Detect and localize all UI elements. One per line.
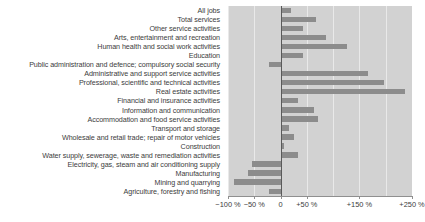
category-label: Transport and storage [0, 124, 224, 133]
bar-row [228, 15, 412, 24]
bar-row [228, 133, 412, 142]
category-label: Manufacturing [0, 169, 224, 178]
bar [281, 152, 298, 157]
bar [281, 107, 314, 112]
bar-row [228, 124, 412, 133]
category-label: Information and communication [0, 106, 224, 115]
category-label: Education [0, 51, 224, 60]
category-label: Accommodation and food service activitie… [0, 115, 224, 124]
x-axis-tick-label: +250 % [399, 200, 424, 209]
x-axis-tick-label: −50 % [244, 200, 265, 209]
category-label: Real estate activities [0, 87, 224, 96]
bar [281, 53, 303, 58]
bar [281, 8, 292, 13]
bar-row [228, 96, 412, 105]
category-label: Human health and social work activities [0, 42, 224, 51]
bar [281, 98, 299, 103]
bar [252, 161, 281, 166]
bar-row [228, 42, 412, 51]
category-label: Agriculture, forestry and fishing [0, 187, 224, 196]
bar-row [228, 33, 412, 42]
category-label: Professional, scientific and technical a… [0, 78, 224, 87]
bar [269, 62, 281, 67]
category-label: Water supply, sewerage, waste and remedi… [0, 151, 224, 160]
x-axis-tick-mark [228, 196, 229, 199]
x-axis-tick-label: +50 % [296, 200, 317, 209]
bar [234, 179, 280, 184]
x-axis-tick-label: 0 [279, 200, 283, 209]
bar [281, 17, 316, 22]
bar-row [228, 69, 412, 78]
bar-row [228, 178, 412, 187]
x-axis-tick-mark [412, 196, 413, 199]
bar-row [228, 160, 412, 169]
bar [281, 44, 348, 49]
category-label: Arts, entertainment and recreation [0, 33, 224, 42]
x-axis-tick-mark [281, 196, 282, 199]
category-label-column: All jobsTotal servicesOther service acti… [0, 6, 224, 196]
x-axis-tick-label: −100 % [215, 200, 240, 209]
bar [269, 189, 281, 194]
bar-row [228, 24, 412, 33]
bar [281, 71, 369, 76]
category-label: Wholesale and retail trade; repair of mo… [0, 133, 224, 142]
bar [281, 89, 406, 94]
x-axis-tick-mark [307, 196, 308, 199]
plot-area [228, 6, 412, 196]
bar-row [228, 106, 412, 115]
bar-row [228, 115, 412, 124]
bar-row [228, 78, 412, 87]
bar [281, 26, 304, 31]
bar [281, 80, 384, 85]
category-label: Public administration and defence; compu… [0, 60, 224, 69]
bar-row [228, 151, 412, 160]
bar-row [228, 169, 412, 178]
x-axis-tick-mark [254, 196, 255, 199]
category-label: Administrative and support service activ… [0, 69, 224, 78]
bar-row [228, 87, 412, 96]
category-label: Other service activities [0, 24, 224, 33]
x-axis-line [228, 196, 412, 197]
bar-row [228, 6, 412, 15]
bar [248, 170, 281, 175]
zero-line [281, 6, 282, 196]
category-label: Construction [0, 142, 224, 151]
bar [281, 125, 289, 130]
x-axis-tick-mark [359, 196, 360, 199]
bar-row [228, 60, 412, 69]
bar-row [228, 187, 412, 196]
category-label: Electricity, gas, steam and air conditio… [0, 160, 224, 169]
category-label: All jobs [0, 6, 224, 15]
x-axis-tick-label: +150 % [347, 200, 372, 209]
category-label: Financial and insurance activities [0, 96, 224, 105]
bar-row [228, 142, 412, 151]
bar [281, 116, 319, 121]
bar [281, 134, 295, 139]
bar [281, 35, 326, 40]
category-label: Mining and quarrying [0, 178, 224, 187]
category-label: Total services [0, 15, 224, 24]
bar-row [228, 51, 412, 60]
